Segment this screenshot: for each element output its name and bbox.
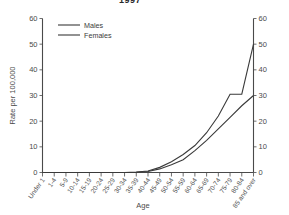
y-axis-right-tick-label: 0	[259, 168, 263, 177]
y-axis-left-tick-label: 30	[29, 91, 37, 100]
legend-label-males: Males	[84, 21, 104, 30]
y-axis-title: Rate per 100,000	[8, 67, 17, 125]
chart-legend: MalesFemales	[58, 21, 112, 40]
y-axis-right-tick-label: 10	[259, 142, 267, 151]
chart-container: 1997 0102030405060 0102030405060 Under 1…	[0, 0, 289, 215]
y-axis-left-tick-label: 0	[33, 168, 37, 177]
y-axis-left-tick-label: 40	[29, 65, 37, 74]
y-axis-right-tick-label: 60	[259, 14, 267, 23]
y-axis-right-tick-label: 30	[259, 91, 267, 100]
legend-label-females: Females	[84, 31, 112, 40]
x-axis-tick-label: 1-4	[46, 176, 57, 188]
series-line-females	[43, 96, 254, 173]
y-axis-right-tick-label: 40	[259, 65, 267, 74]
y-axis-left-tick-label: 50	[29, 40, 37, 49]
y-axis-left-tick-label: 20	[29, 117, 37, 126]
x-axis-title: Age	[136, 201, 149, 210]
x-axis-tick-label: Under 1	[27, 176, 46, 200]
data-series-group	[43, 44, 254, 172]
line-chart-plot: 0102030405060 0102030405060 Under 11-45-…	[0, 0, 289, 215]
series-line-males	[43, 44, 254, 172]
y-axis-left: 0102030405060	[29, 14, 42, 177]
y-axis-left-tick-label: 60	[29, 14, 37, 23]
y-axis-right: 0102030405060	[254, 14, 267, 177]
y-axis-left-tick-label: 10	[29, 142, 37, 151]
y-axis-right-tick-label: 50	[259, 40, 267, 49]
y-axis-right-tick-label: 20	[259, 117, 267, 126]
